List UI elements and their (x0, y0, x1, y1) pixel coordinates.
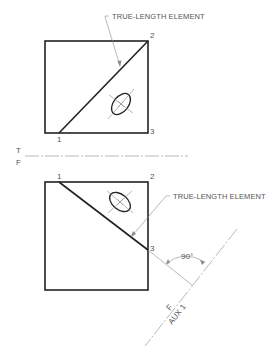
front-point-2: 2 (150, 172, 155, 181)
top-view-outline (45, 41, 148, 133)
top-view-hole (108, 89, 135, 119)
front-view-annotation: TRUE-LENGTH ELEMENT (173, 192, 266, 201)
top-view: TRUE-LENGTH ELEMENT 1 2 3 (45, 12, 205, 144)
angle-label: 90° (181, 252, 193, 261)
top-view-true-length-edge (59, 41, 148, 133)
fold-line-top-front: T F (16, 146, 188, 167)
front-point-1: 1 (57, 172, 62, 181)
auxiliary-fold-line: 90° F AUX 1 (145, 229, 237, 346)
front-view-hole (106, 189, 134, 216)
top-view-annotation: TRUE-LENGTH ELEMENT (112, 12, 205, 21)
top-point-1: 1 (57, 135, 62, 144)
fold-label-t: T (16, 146, 21, 155)
top-point-2: 2 (150, 31, 155, 40)
diagram-canvas: TRUE-LENGTH ELEMENT 1 2 3 T F TRUE-LENGT… (0, 0, 276, 354)
front-point-3: 3 (150, 244, 155, 253)
fold-label-f: F (16, 158, 21, 167)
front-view-leader (131, 196, 170, 237)
top-point-3: 3 (150, 127, 155, 136)
front-view: TRUE-LENGTH ELEMENT 1 2 3 (45, 172, 266, 290)
aux-fold-line (145, 229, 237, 346)
front-view-true-length-edge (59, 182, 148, 250)
